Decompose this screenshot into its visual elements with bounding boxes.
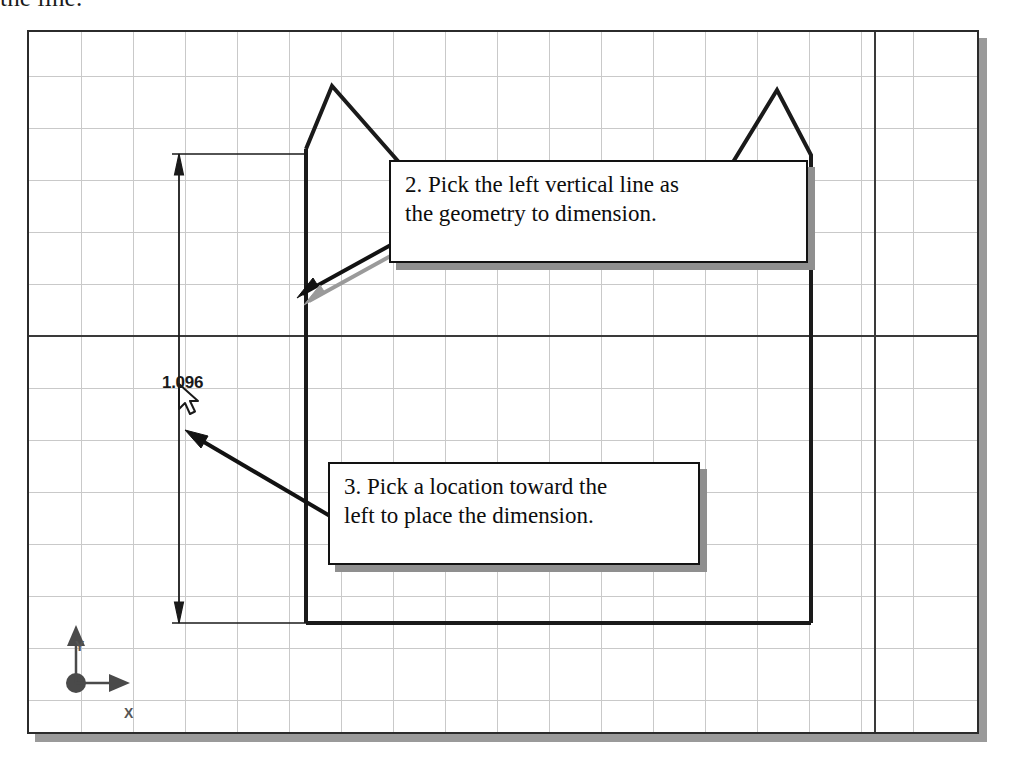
callout-2-line-1: 2. Pick the left vertical line as [405, 171, 792, 200]
callout-3-line-1: 3. Pick a location toward the [344, 473, 684, 502]
origin-axis-y-label: Y [75, 638, 84, 654]
callout-2-line-2: the geometry to dimension. [405, 200, 792, 229]
dimension-arrowhead-bottom [175, 602, 184, 623]
page-caption-text: the line. [0, 0, 82, 12]
viewport-frame[interactable]: 1.096 Y X [27, 30, 979, 734]
dimension-value-label[interactable]: 1.096 [162, 373, 203, 393]
cad-drawing-viewport[interactable]: 1.096 Y X [27, 30, 979, 734]
dimension-arrowhead-top [175, 154, 184, 175]
callout-3-instruction-box: 3. Pick a location toward the left to pl… [328, 462, 700, 565]
callout-2-instruction-box: 2. Pick the left vertical line as the ge… [389, 160, 808, 263]
origin-axis-x-arrowhead [109, 674, 130, 692]
origin-axis-x-label: X [124, 705, 133, 721]
callout-3-line-2: left to place the dimension. [344, 502, 684, 531]
origin-axis-marker [66, 625, 130, 693]
